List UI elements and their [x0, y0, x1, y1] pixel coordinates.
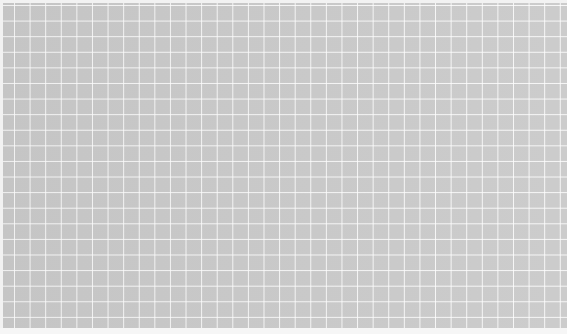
bottom-edge: [0, 328, 567, 334]
grid-paper-sheet: [3, 3, 567, 328]
lighting-shade: [3, 3, 567, 328]
